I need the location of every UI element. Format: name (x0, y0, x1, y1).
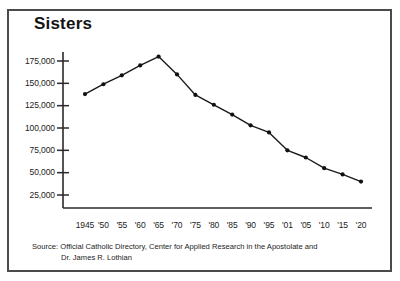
data-point (285, 148, 289, 152)
data-point (304, 155, 308, 159)
x-axis-label: '10 (315, 220, 333, 230)
x-axis-label: '65 (150, 220, 168, 230)
x-axis-label: '55 (113, 220, 131, 230)
x-axis-label: '50 (94, 220, 112, 230)
data-line (85, 57, 361, 182)
x-axis-label: '75 (186, 220, 204, 230)
y-axis-label: 125,000 (11, 100, 55, 110)
y-axis-label: 175,000 (11, 56, 55, 66)
data-point (359, 180, 363, 184)
x-axis-label: '01 (278, 220, 296, 230)
data-point (101, 82, 105, 86)
x-axis-label: '60 (131, 220, 149, 230)
x-axis-label: '90 (242, 220, 260, 230)
y-axis-label: 25,000 (11, 190, 55, 200)
x-axis-label: '85 (223, 220, 241, 230)
data-point (120, 73, 124, 77)
source-line-1: Source: Official Catholic Directory, Cen… (32, 242, 317, 251)
x-axis-label: '70 (168, 220, 186, 230)
chart-axes (63, 52, 372, 208)
data-point (341, 172, 345, 176)
data-point (138, 63, 142, 67)
line-chart-plot (0, 0, 400, 281)
y-axis-label: 100,000 (11, 123, 55, 133)
x-axis-label: '95 (260, 220, 278, 230)
y-axis-label: 150,000 (11, 78, 55, 88)
data-point (175, 72, 179, 76)
y-axis-label: 50,000 (11, 167, 55, 177)
data-point (157, 54, 161, 58)
data-point (267, 130, 271, 134)
data-point (322, 166, 326, 170)
x-axis-label: '05 (297, 220, 315, 230)
data-point (193, 93, 197, 97)
x-axis-label: '15 (334, 220, 352, 230)
data-point (249, 123, 253, 127)
x-axis-label: '80 (205, 220, 223, 230)
y-axis-label: 75,000 (11, 145, 55, 155)
data-point (83, 92, 87, 96)
source-note: Source: Official Catholic Directory, Cen… (32, 241, 368, 263)
data-point (230, 113, 234, 117)
data-point (212, 103, 216, 107)
chart-screenshot: Sisters 175,000150,000125,000100,00075,0… (0, 0, 400, 281)
x-axis-label: '20 (352, 220, 370, 230)
source-line-2: Dr. James R. Lothian (32, 252, 368, 263)
